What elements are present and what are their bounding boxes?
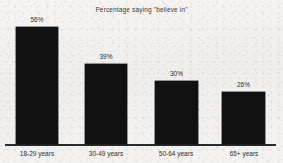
bar-value-1: 39% xyxy=(85,53,127,61)
category-label-0: 18-29 years xyxy=(2,150,72,158)
bar-2 xyxy=(155,81,198,144)
bar-chart-figure: Percentage saying "believe in" 56% 18-29… xyxy=(0,0,283,163)
bar-value-3: 26% xyxy=(222,81,265,89)
bar-3 xyxy=(222,92,265,144)
category-label-2: 50-64 years xyxy=(141,150,211,158)
category-label-1: 30-49 years xyxy=(71,150,141,158)
bar-value-0: 56% xyxy=(16,16,58,24)
plot-area: 56% 18-29 years 39% 30-49 years 30% 50-6… xyxy=(0,0,283,163)
bar-1 xyxy=(85,64,127,144)
bar-value-2: 30% xyxy=(155,70,198,78)
x-axis-baseline xyxy=(5,144,276,146)
category-label-3: 65+ years xyxy=(209,150,279,158)
bar-0 xyxy=(16,27,58,144)
